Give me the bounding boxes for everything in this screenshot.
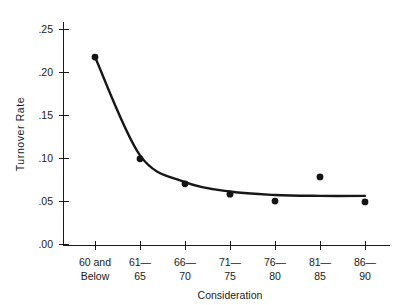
data-point — [182, 180, 189, 187]
x-tick-label-line1: 86— — [354, 256, 377, 268]
x-tick-label-line2: Below — [81, 270, 110, 282]
data-point — [92, 54, 99, 61]
x-tick-label-line2: 75 — [224, 270, 236, 282]
data-point — [317, 174, 324, 181]
x-tick-label-line1: 71— — [219, 256, 242, 268]
x-tick-label-line1: 81— — [309, 256, 332, 268]
y-axis-title: Turnover Rate — [14, 97, 26, 172]
x-tick-label-line1: 61— — [129, 256, 152, 268]
x-tick-label-line2: 80 — [269, 270, 281, 282]
x-tick-label-line1: 66— — [174, 256, 197, 268]
x-axis-title: Consideration — [198, 289, 263, 301]
data-point — [137, 155, 144, 162]
x-tick-label-line2: 85 — [314, 270, 326, 282]
data-points — [92, 54, 369, 206]
y-tick-label: .05 — [38, 195, 53, 207]
x-tick-labels: 60 and Below 61— 65 66— 70 71— 75 76— 80… — [79, 256, 377, 282]
x-tick-label-line1: 60 and — [79, 256, 111, 268]
y-tick-label: .10 — [38, 152, 53, 164]
data-point — [272, 198, 279, 205]
data-point — [227, 191, 234, 198]
x-tick-label-line2: 65 — [134, 270, 146, 282]
y-tick-label: .00 — [38, 238, 53, 250]
y-tick-label: .25 — [38, 23, 53, 35]
y-tick-label: .15 — [38, 109, 53, 121]
fitted-curve — [95, 57, 365, 196]
turnover-rate-chart: .25 .20 .15 .10 .05 .00 Turnover Rate 60… — [0, 0, 403, 305]
data-point — [362, 199, 369, 206]
x-tick-label-line2: 70 — [179, 270, 191, 282]
x-tick-label-line1: 76— — [264, 256, 287, 268]
x-tick-label-line2: 90 — [359, 270, 371, 282]
chart-canvas: .25 .20 .15 .10 .05 .00 Turnover Rate 60… — [0, 0, 403, 305]
y-tick-label: .20 — [38, 66, 53, 78]
